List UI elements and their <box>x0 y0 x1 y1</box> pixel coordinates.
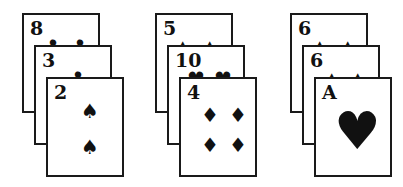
playing-card-4-of-diamonds: 4♦♦♦♦ <box>179 77 257 177</box>
spades-icon: ♠ <box>81 137 99 157</box>
card-rank: 3 <box>42 49 55 71</box>
card-rank: 8 <box>30 17 43 39</box>
playing-card-A-of-hearts: A♥ <box>314 77 392 177</box>
diamonds-icon: ♦ <box>201 105 219 125</box>
diamonds-icon: ♦ <box>201 135 219 155</box>
diamonds-icon: ♦ <box>229 105 247 125</box>
card-rank: A <box>322 81 337 103</box>
card-rank: 4 <box>187 81 200 103</box>
hearts-icon: ♥ <box>334 105 381 157</box>
diamonds-icon: ♦ <box>229 135 247 155</box>
card-rank: 6 <box>310 49 323 71</box>
spades-icon: ♠ <box>81 101 99 121</box>
card-rank: 6 <box>298 17 311 39</box>
playing-card-2-of-spades: 2♠♠ <box>46 77 124 177</box>
card-rank: 2 <box>54 81 67 103</box>
